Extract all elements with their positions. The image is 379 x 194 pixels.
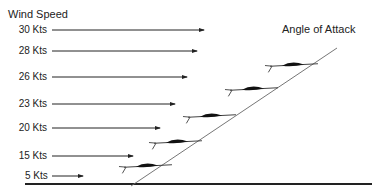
- aircraft-icon: [183, 112, 236, 123]
- wind-arrows: [52, 30, 204, 176]
- aircraft-icon: [265, 61, 318, 72]
- angle-of-attack-diagram: [0, 0, 379, 194]
- aircraft-icon: [225, 85, 278, 96]
- aircraft-group: [119, 61, 318, 173]
